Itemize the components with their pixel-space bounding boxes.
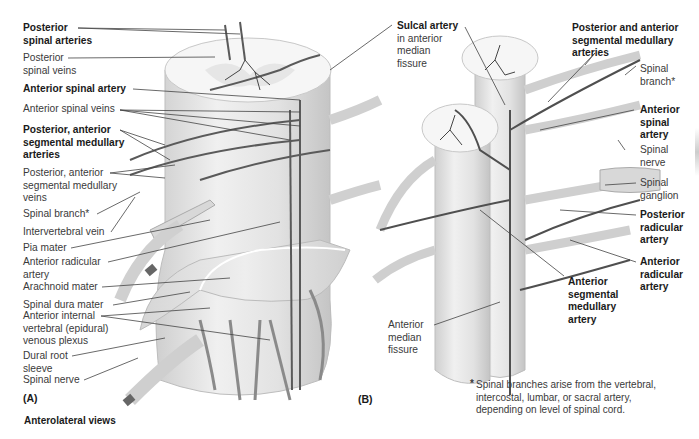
label-line: Anterior xyxy=(388,319,424,332)
label-line: median xyxy=(388,332,424,345)
label-line: spinal veins xyxy=(23,65,76,78)
label-posterior-anterior-segmental-medullary-veins: Posterior, anterior segmental medullary … xyxy=(23,167,117,205)
panel-a-cord xyxy=(120,22,380,406)
label-line: segmental medullary xyxy=(23,180,117,193)
label-dural-root-sleeve: Dural root sleeve xyxy=(23,350,68,375)
label-line: Arachnoid mater xyxy=(23,281,98,294)
label-line: Anterior radicular xyxy=(23,256,101,269)
views-caption: Anterolateral views xyxy=(24,415,116,426)
label-line: ganglion xyxy=(640,190,679,203)
label-posterior-spinal-arteries: Posterior spinal arteries xyxy=(23,22,92,47)
label-line: segmental medullary xyxy=(23,137,124,150)
page-edge-shadow xyxy=(695,128,699,176)
label-line: arteries xyxy=(572,47,678,60)
label-line: segmental medullary xyxy=(572,35,678,48)
label-line: venous plexus xyxy=(23,335,109,348)
label-line: veins xyxy=(23,192,117,205)
label-line: Dural root xyxy=(23,350,68,363)
label-line: spinal xyxy=(640,117,680,130)
label-line: Posterior, anterior xyxy=(23,167,117,180)
label-line: medullary xyxy=(568,301,618,314)
label-line: radicular xyxy=(640,269,683,282)
footnote-line: Spinal branches arise from the vertebral… xyxy=(476,379,656,392)
label-line: artery xyxy=(23,269,101,282)
label-spinal-branch: Spinal branch* xyxy=(23,208,89,221)
label-anterior-radicular-artery-b: Anterior radicular artery xyxy=(640,256,683,294)
label-line: Intervertebral vein xyxy=(23,226,105,239)
label-sulcal-artery: Sulcal artery in anterior median fissure xyxy=(397,20,458,70)
label-line: Pia mater xyxy=(23,242,67,255)
label-line: vertebral (epidural) xyxy=(23,323,109,336)
label-line: Anterior xyxy=(640,256,683,269)
footnote-line: intercostal, lumbar, or sacral artery, xyxy=(476,392,656,405)
label-line: Anterior spinal veins xyxy=(23,103,115,116)
label-line: artery xyxy=(640,234,685,247)
label-line: spinal arteries xyxy=(23,35,92,48)
label-line: Spinal xyxy=(640,63,675,76)
label-spinal-ganglion: Spinal ganglion xyxy=(640,177,679,202)
label-posterior-anterior-segmental-medullary-arteries: Posterior, anterior segmental medullary … xyxy=(23,124,124,162)
panel-b-tag: (B) xyxy=(358,393,373,405)
label-line: fissure xyxy=(388,344,424,357)
spinal-cord-illustration xyxy=(0,0,699,439)
label-spinal-nerve-b: Spinal nerve xyxy=(640,144,668,169)
footnote-marker: * xyxy=(470,378,474,391)
label-anterior-segmental-medullary-artery: Anterior segmental medullary artery xyxy=(568,276,618,326)
label-line: segmental xyxy=(568,289,618,302)
footnote-line: depending on level of spinal cord. xyxy=(476,404,656,417)
label-line: Anterior internal xyxy=(23,310,109,323)
label-line: Anterior xyxy=(568,276,618,289)
label-line: nerve xyxy=(640,157,668,170)
label-line: Spinal xyxy=(640,177,679,190)
label-posterior-radicular-artery: Posterior radicular artery xyxy=(640,209,685,247)
label-line: fissure xyxy=(397,58,458,71)
label-line: Anterior xyxy=(640,104,680,117)
label-line: Spinal nerve xyxy=(23,374,80,387)
label-posterior-and-anterior-segmental-medullary-arteries: Posterior and anterior segmental medulla… xyxy=(572,22,678,60)
panel-a-tag: (A) xyxy=(23,392,38,404)
label-arachnoid-mater: Arachnoid mater xyxy=(23,281,98,294)
label-line: Posterior, anterior xyxy=(23,124,124,137)
label-intervertebral-vein: Intervertebral vein xyxy=(23,226,105,239)
label-posterior-spinal-veins: Posterior spinal veins xyxy=(23,52,76,77)
label-anterior-radicular-artery: Anterior radicular artery xyxy=(23,256,101,281)
label-pia-mater: Pia mater xyxy=(23,242,67,255)
label-line: Spinal xyxy=(640,144,668,157)
label-line: artery xyxy=(640,281,683,294)
label-line: Sulcal artery xyxy=(397,20,458,33)
label-spinal-nerve: Spinal nerve xyxy=(23,374,80,387)
label-anterior-internal-vertebral-venous-plexus: Anterior internal vertebral (epidural) v… xyxy=(23,310,109,348)
label-anterior-spinal-artery-b: Anterior spinal artery xyxy=(640,104,680,142)
label-line: Posterior xyxy=(23,52,76,65)
label-line: Posterior xyxy=(23,22,92,35)
label-line: Posterior and anterior xyxy=(572,22,678,35)
label-line: branch* xyxy=(640,76,675,89)
label-line: arteries xyxy=(23,149,124,162)
label-line: radicular xyxy=(640,222,685,235)
label-line: median xyxy=(397,45,458,58)
label-spinal-branch-b: Spinal branch* xyxy=(640,63,675,88)
label-line: Posterior xyxy=(640,209,685,222)
label-line: in anterior xyxy=(397,33,458,46)
label-anterior-spinal-artery: Anterior spinal artery xyxy=(23,83,126,96)
label-anterior-median-fissure: Anterior median fissure xyxy=(388,319,424,357)
label-line: Spinal branch* xyxy=(23,208,89,221)
label-line: artery xyxy=(640,129,680,142)
label-line: Anterior spinal artery xyxy=(23,83,126,96)
label-anterior-spinal-veins: Anterior spinal veins xyxy=(23,103,115,116)
label-line: artery xyxy=(568,314,618,327)
footnote: * Spinal branches arise from the vertebr… xyxy=(476,379,656,417)
